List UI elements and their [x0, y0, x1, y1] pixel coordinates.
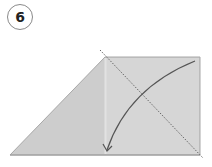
origami-fold-diagram [0, 0, 212, 167]
